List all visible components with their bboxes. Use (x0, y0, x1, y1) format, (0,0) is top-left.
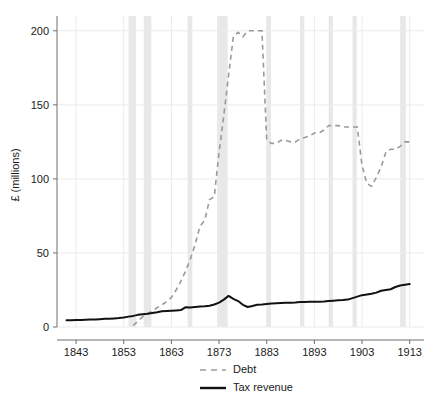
tax-revenue-line (67, 284, 410, 320)
y-axis-title: £ (millions) (9, 148, 21, 201)
series-debt (133, 31, 409, 326)
y-axis: 050100150200 (31, 16, 57, 333)
x-axis-tick-label: 1873 (207, 346, 231, 358)
x-axis-tick-label: 1913 (397, 346, 421, 358)
x-axis-tick-label: 1863 (159, 346, 183, 358)
x-axis-tick-label: 1893 (302, 346, 326, 358)
shaded-band (300, 16, 304, 327)
shaded-band (353, 16, 357, 327)
x-axis-tick-label: 1853 (111, 346, 135, 358)
shaded-band (144, 16, 152, 327)
shaded-band (267, 16, 271, 327)
legend-label-debt: Debt (233, 363, 256, 375)
chart-container: 050100150200 184318531863187318831893190… (0, 0, 430, 405)
line-chart: 050100150200 184318531863187318831893190… (0, 0, 430, 405)
debt-line (133, 31, 409, 326)
x-axis-tick-label: 1883 (254, 346, 278, 358)
x-axis: 18431853186318731883189319031913 (57, 340, 424, 358)
shaded-band (329, 16, 333, 327)
x-axis-tick-label: 1843 (64, 346, 88, 358)
shaded-band (128, 16, 136, 327)
gridlines (57, 16, 424, 327)
y-axis-tick-label: 150 (31, 99, 49, 111)
shaded-band (400, 16, 406, 327)
chart-legend: DebtTax revenue (200, 363, 293, 393)
y-axis-tick-label: 50 (37, 247, 49, 259)
legend-label-tax-revenue: Tax revenue (233, 381, 293, 393)
x-axis-tick-label: 1903 (350, 346, 374, 358)
series-tax-revenue (67, 284, 410, 320)
y-axis-tick-label: 200 (31, 25, 49, 37)
shaded-band (188, 16, 193, 327)
y-axis-tick-label: 100 (31, 173, 49, 185)
y-axis-tick-label: 0 (43, 321, 49, 333)
